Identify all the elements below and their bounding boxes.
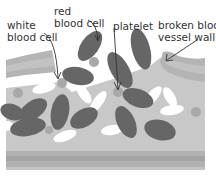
platelet [191, 107, 201, 117]
vessel-wall-bottom-edge [6, 167, 205, 170]
label-broken-vessel-wall-line2: vessel wall [158, 31, 215, 43]
label-broken-vessel-wall-line1: broken blood [158, 19, 216, 31]
label-white-blood-cell-line1: white [7, 19, 36, 31]
label-white-blood-cell-line2: blood cell [7, 31, 58, 43]
label-red-blood-cell-line1: red [54, 5, 71, 17]
label-platelet: platelet [113, 20, 153, 32]
vessel-wall-bottom-band [6, 156, 205, 161]
label-red-blood-cell-line2: blood cell [54, 17, 105, 29]
platelet [45, 126, 53, 134]
platelet [13, 88, 23, 98]
platelet [89, 57, 99, 67]
